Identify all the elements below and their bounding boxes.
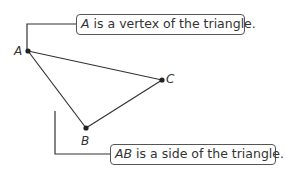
- vertex-b-label: B: [81, 134, 89, 148]
- vertex-a-label: A: [14, 44, 22, 58]
- vertex-callout: A is a vertex of the triangle.: [76, 14, 245, 35]
- vertex-callout-emphasis: A: [81, 16, 90, 31]
- side-callout-emphasis: AB: [115, 146, 132, 161]
- vertex-c-dot: [159, 77, 164, 82]
- vertex-c-label: C: [166, 72, 174, 86]
- side-callout: AB is a side of the triangle.: [110, 144, 276, 165]
- vertex-a-dot: [25, 48, 30, 53]
- side-callout-text: is a side of the triangle.: [132, 146, 284, 161]
- side-bc: [86, 80, 162, 128]
- vertex-leader-line: [27, 24, 77, 51]
- side-ab: [28, 51, 86, 128]
- vertex-callout-text: is a vertex of the triangle.: [90, 16, 256, 31]
- vertex-b-dot: [83, 125, 88, 130]
- side-ac: [28, 51, 162, 80]
